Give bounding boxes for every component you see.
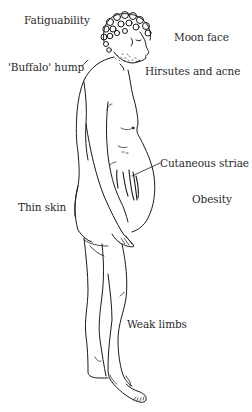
label-moon-face: Moon face (174, 31, 229, 43)
label-weak-limbs: Weak limbs (127, 318, 187, 330)
label-thin-skin: Thin skin (18, 201, 66, 213)
label-obesity: Obesity (192, 193, 232, 205)
cushings-diagram: Fatiguability Moon face 'Buffalo' hump H… (0, 0, 252, 412)
label-cutaneous-striae: Cutaneous striae (160, 157, 249, 169)
label-buffalo-hump: 'Buffalo' hump (8, 61, 84, 73)
legs-outline (75, 186, 146, 402)
striae-leader-line (132, 163, 160, 176)
label-fatiguability: Fatiguability (24, 14, 90, 26)
label-hirsutes-and-acne: Hirsutes and acne (145, 65, 240, 77)
head-curly-hair (101, 12, 151, 71)
torso-outline (75, 57, 155, 247)
